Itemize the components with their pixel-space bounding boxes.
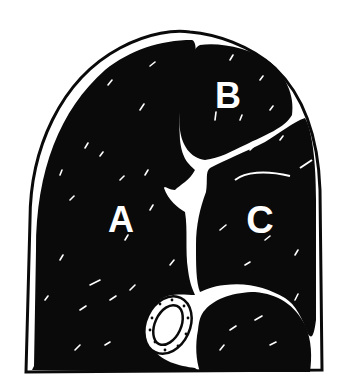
cross-section-diagram: [0, 0, 347, 389]
